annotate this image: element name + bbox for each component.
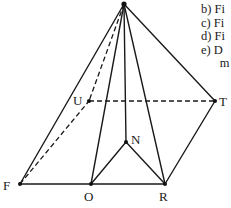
label-f: F bbox=[3, 178, 10, 193]
label-n: N bbox=[131, 132, 141, 147]
point-r bbox=[163, 182, 167, 186]
point-u bbox=[87, 99, 91, 103]
edge-apex-n bbox=[124, 4, 126, 142]
label-t: T bbox=[219, 94, 227, 109]
edge-apex-f bbox=[20, 4, 124, 184]
label-o: O bbox=[84, 189, 93, 204]
edge-apex-u bbox=[89, 4, 124, 101]
edge-apex-o bbox=[91, 4, 124, 184]
point-n bbox=[124, 140, 128, 144]
point-apex bbox=[121, 1, 126, 6]
question-item-e-continued: m bbox=[201, 57, 229, 71]
question-item-e: e) D bbox=[201, 44, 229, 58]
point-f bbox=[18, 182, 22, 186]
question-item-c: c) Fi bbox=[201, 17, 229, 31]
question-item-b: b) Fi bbox=[201, 3, 229, 17]
edge-apex-r bbox=[124, 4, 165, 184]
label-u: U bbox=[73, 93, 83, 108]
edge-f-u bbox=[20, 101, 89, 184]
edge-n-r bbox=[126, 142, 165, 184]
question-list-fragment: b) Fi c) Fi d) Fi e) D m bbox=[201, 3, 229, 71]
edge-o-n bbox=[91, 142, 126, 184]
pyramid-diagram: U T N F O R bbox=[0, 0, 231, 208]
edge-r-t bbox=[165, 101, 215, 184]
point-t bbox=[213, 99, 217, 103]
question-item-d: d) Fi bbox=[201, 30, 229, 44]
point-o bbox=[89, 182, 93, 186]
label-r: R bbox=[159, 189, 168, 204]
